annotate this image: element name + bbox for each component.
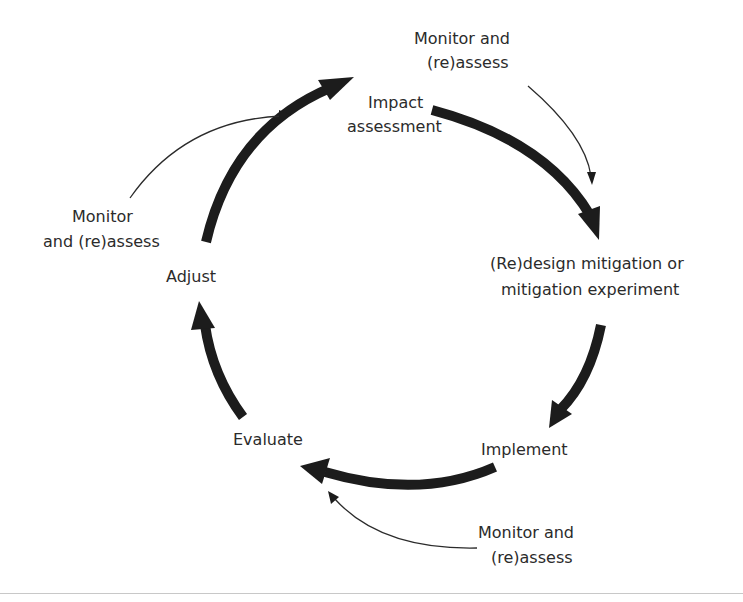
node-implement: Implement xyxy=(481,440,568,459)
arrow-adjust-to-impact xyxy=(206,77,354,242)
monitor-arrow-top xyxy=(528,86,596,185)
monitor-label-left: Monitor and (re)assess xyxy=(43,207,160,251)
monitor-label-bottom: Monitor and (re)assess xyxy=(478,523,579,567)
arrow-evaluate-to-adjust xyxy=(191,301,243,417)
arrow-implement-to-evaluate xyxy=(300,458,495,485)
cycle-diagram: Impact assessment (Re)design mitigation … xyxy=(0,0,743,602)
monitor-label-top: Monitor and (re)assess xyxy=(414,29,515,72)
monitor-arrow-bottom xyxy=(328,491,477,548)
node-adjust: Adjust xyxy=(166,267,216,286)
node-evaluate: Evaluate xyxy=(233,430,303,449)
arrow-redesign-to-implement xyxy=(549,325,601,428)
arrow-impact-to-redesign xyxy=(432,110,600,240)
bottom-divider xyxy=(0,593,743,594)
node-redesign-mitigation: (Re)design mitigation or mitigation expe… xyxy=(490,254,689,299)
node-impact-assessment: Impact assessment xyxy=(347,93,442,136)
